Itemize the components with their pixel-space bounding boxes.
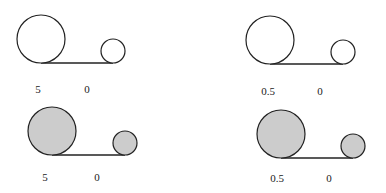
large-circle bbox=[257, 110, 305, 158]
small-circle bbox=[331, 40, 355, 64]
value-label: 5 bbox=[42, 172, 48, 183]
small-circle bbox=[113, 131, 137, 155]
value-label: 5 bbox=[35, 84, 41, 95]
value-label: 0 bbox=[317, 86, 323, 97]
small-circle bbox=[101, 39, 125, 63]
large-circle bbox=[17, 15, 65, 63]
value-label: 0 bbox=[84, 84, 90, 95]
diagram-canvas bbox=[0, 0, 386, 193]
panel-bottom-left bbox=[28, 107, 137, 155]
value-label: 0.5 bbox=[261, 86, 275, 97]
panel-bottom-right bbox=[257, 110, 365, 158]
value-label: 0.5 bbox=[270, 173, 284, 184]
panel-top-left bbox=[17, 15, 125, 63]
large-circle bbox=[28, 107, 76, 155]
panel-top-right bbox=[246, 16, 355, 64]
value-label: 0 bbox=[326, 173, 332, 184]
large-circle bbox=[246, 16, 294, 64]
small-circle bbox=[341, 134, 365, 158]
value-label: 0 bbox=[94, 172, 100, 183]
